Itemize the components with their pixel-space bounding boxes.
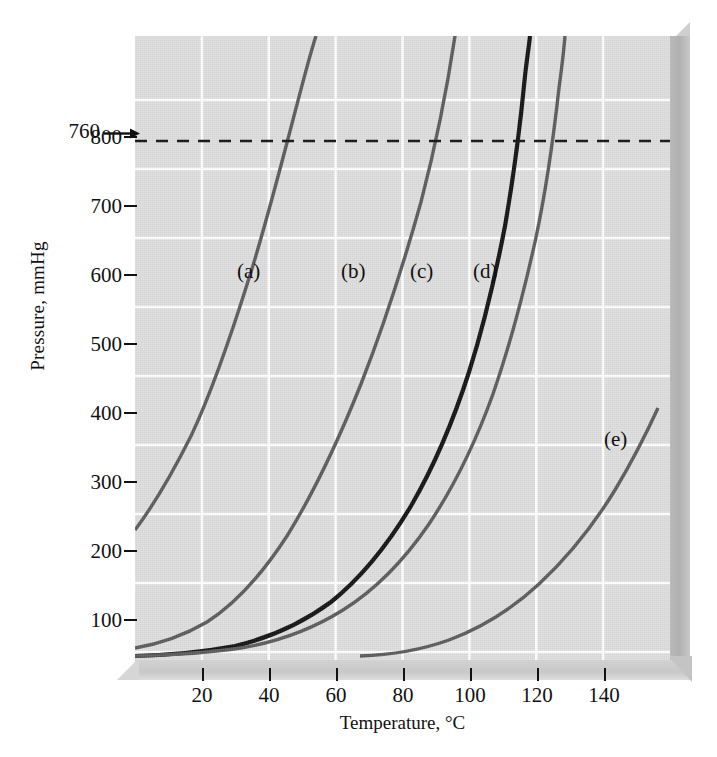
x-tick-label-120: 120	[507, 683, 567, 708]
x-axis-title: Temperature, °C	[135, 712, 670, 734]
y-tick-label-300: 300	[50, 470, 122, 495]
y-tick-mark-300	[124, 481, 137, 483]
y-tick-mark-600	[124, 274, 137, 276]
curve-label-e: (e)	[604, 427, 627, 452]
x-tick-mark-100	[470, 668, 472, 681]
grid-vertical	[202, 36, 603, 660]
y-axis-title: Pressure, mmHg	[27, 206, 49, 406]
curve-a	[135, 36, 316, 530]
plot-svg	[135, 36, 670, 660]
panel-side-face-right	[670, 36, 690, 676]
x-tick-mark-120	[537, 668, 539, 681]
y-tick-label-600: 600	[50, 263, 122, 288]
y-tick-label-500: 500	[50, 332, 122, 357]
reference-line-label-760: 760	[28, 119, 100, 144]
x-tick-label-40: 40	[239, 683, 299, 708]
plot-area	[135, 36, 670, 660]
reference-line-arrow-icon	[104, 127, 140, 140]
y-tick-mark-100	[124, 619, 137, 621]
y-tick-mark-700	[124, 205, 137, 207]
x-tick-label-140: 140	[574, 683, 634, 708]
y-tick-mark-500	[124, 343, 137, 345]
y-tick-label-200: 200	[50, 539, 122, 564]
x-tick-mark-80	[403, 668, 405, 681]
figure-root: 800 700 600 500 400 300 200 100 760 20 4…	[0, 0, 717, 757]
y-tick-mark-200	[124, 550, 137, 552]
y-tick-mark-400	[124, 412, 137, 414]
y-tick-label-700: 700	[50, 194, 122, 219]
curve-label-c: (c)	[410, 259, 433, 284]
curve-d	[135, 36, 565, 656]
curve-label-a: (a)	[237, 259, 260, 284]
x-tick-label-20: 20	[172, 683, 232, 708]
curve-label-b: (b)	[341, 259, 366, 284]
x-tick-label-60: 60	[306, 683, 366, 708]
x-tick-label-80: 80	[373, 683, 433, 708]
x-tick-label-100: 100	[440, 683, 500, 708]
x-tick-mark-20	[202, 668, 204, 681]
x-tick-mark-60	[336, 668, 338, 681]
panel-side-face-bottom	[135, 660, 690, 680]
curve-c	[135, 36, 530, 656]
y-tick-label-100: 100	[50, 608, 122, 633]
x-tick-mark-140	[604, 668, 606, 681]
x-tick-mark-40	[269, 668, 271, 681]
curve-b	[135, 36, 455, 648]
curve-label-d: (d)	[473, 259, 498, 284]
y-tick-label-400: 400	[50, 401, 122, 426]
